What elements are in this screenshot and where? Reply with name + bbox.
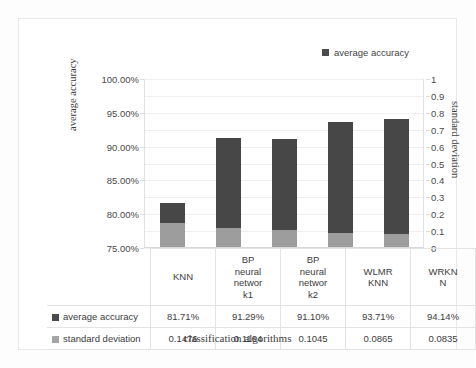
table-category-cell: WLMRKNN xyxy=(346,249,411,306)
bar-segment-standard-deviation[interactable] xyxy=(384,234,409,248)
table-row-header: average accuracy xyxy=(47,306,151,328)
bar-segment-standard-deviation[interactable] xyxy=(216,228,241,248)
y-axis-title-left: average accuracy xyxy=(67,58,78,131)
y-tick-mark-right xyxy=(426,79,430,80)
bar-segment-average-accuracy[interactable] xyxy=(384,119,409,234)
stacked-bar[interactable] xyxy=(272,139,297,248)
y-tick-label-left: 85.00% xyxy=(107,175,139,186)
chart-legend: average accuracy xyxy=(322,47,409,58)
table-value-cell: 91.10% xyxy=(281,306,346,328)
table-row: average accuracy81.71%91.29%91.10%93.71%… xyxy=(47,306,476,328)
y-tick-label-left: 95.00% xyxy=(107,107,139,118)
stacked-bar[interactable] xyxy=(384,119,409,248)
stacked-bar[interactable] xyxy=(328,122,353,248)
table-row-label: average accuracy xyxy=(63,311,138,322)
chart-frame: average accuracy average accuracy 75.00%… xyxy=(18,18,457,350)
y-tick-mark-right xyxy=(426,130,430,131)
y-tick-label-right: 0.4 xyxy=(431,175,444,186)
y-tick-label-right: 0.1 xyxy=(431,226,444,237)
table-value-cell: 94.14% xyxy=(411,306,476,328)
table-category-cell: BPneuralnetwork1 xyxy=(216,249,281,306)
y-axis-left-ticks: 75.00%80.00%85.00%90.00%95.00%100.00% xyxy=(81,79,139,248)
table-value-cell: 93.71% xyxy=(346,306,411,328)
y-tick-label-right: 0.2 xyxy=(431,209,444,220)
bar-slot xyxy=(368,79,424,248)
y-tick-mark-right xyxy=(426,180,430,181)
stacked-bar[interactable] xyxy=(216,138,241,248)
bar-segment-standard-deviation[interactable] xyxy=(328,233,353,248)
x-axis-title: classification algorithms xyxy=(19,332,456,344)
table-row-categories: KNNBPneuralnetwork1BPneuralnetwork2WLMRK… xyxy=(47,249,476,306)
y-tick-label-left: 90.00% xyxy=(107,141,139,152)
y-tick-label-right: 0.5 xyxy=(431,158,444,169)
bar-segment-average-accuracy[interactable] xyxy=(272,139,297,230)
y-axis-right-ticks: 00.10.20.30.40.50.60.70.80.91 xyxy=(431,79,461,248)
table-category-cell: WRKNN xyxy=(411,249,476,306)
plot-area xyxy=(144,79,424,248)
y-tick-label-left: 80.00% xyxy=(107,209,139,220)
y-tick-mark-right xyxy=(426,197,430,198)
bar-slot xyxy=(144,79,200,248)
y-tick-label-left: 100.00% xyxy=(101,74,139,85)
y-tick-mark-right xyxy=(426,113,430,114)
table-category-cell: BPneuralnetwork2 xyxy=(281,249,346,306)
y-tick-mark-right xyxy=(426,164,430,165)
bar-slot xyxy=(312,79,368,248)
bar-segment-average-accuracy[interactable] xyxy=(328,122,353,234)
y-tick-label-right: 0.9 xyxy=(431,90,444,101)
y-tick-label-right: 0.8 xyxy=(431,107,444,118)
bar-segment-standard-deviation[interactable] xyxy=(160,223,185,248)
bar-segment-standard-deviation[interactable] xyxy=(272,230,297,248)
bar-series-group xyxy=(144,79,424,248)
bar-segment-average-accuracy[interactable] xyxy=(160,203,185,223)
stacked-bar[interactable] xyxy=(160,203,185,248)
swatch-average-accuracy-icon xyxy=(52,314,59,321)
bar-slot xyxy=(200,79,256,248)
y-tick-mark-right xyxy=(426,147,430,148)
y-tick-label-right: 0.3 xyxy=(431,192,444,203)
y-tick-mark-right xyxy=(426,231,430,232)
legend-swatch-average-accuracy xyxy=(322,49,329,56)
bar-segment-average-accuracy[interactable] xyxy=(216,138,241,228)
table-category-cell: KNN xyxy=(151,249,216,306)
table-value-cell: 81.71% xyxy=(151,306,216,328)
y-tick-mark-right xyxy=(426,214,430,215)
y-tick-label-right: 0.7 xyxy=(431,124,444,135)
y-tick-mark-right xyxy=(426,96,430,97)
table-corner-cell xyxy=(47,249,151,306)
y-tick-label-right: 1 xyxy=(431,74,436,85)
y-tick-label-right: 0.6 xyxy=(431,141,444,152)
legend-label-average-accuracy: average accuracy xyxy=(334,47,409,58)
bar-slot xyxy=(256,79,312,248)
table-value-cell: 91.29% xyxy=(216,306,281,328)
